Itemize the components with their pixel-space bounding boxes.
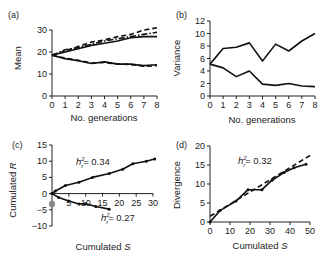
panel-d: (d) 0510152001020304050 Cumulated S Dive… [171, 140, 315, 251]
data-point [235, 200, 238, 203]
x-tick-label: 8 [154, 100, 159, 110]
x-tick-label: 0 [207, 226, 212, 236]
y-tick-label: 5 [200, 198, 205, 208]
data-point [305, 163, 308, 166]
y-axis-label-c: Cumulated R [7, 162, 18, 218]
data-point [145, 160, 148, 163]
x-tick-label: 40 [285, 226, 295, 236]
data-point [77, 202, 80, 205]
data-point [67, 200, 70, 203]
data-point [108, 208, 111, 211]
x-tick-label: 4 [102, 100, 107, 110]
data-point [54, 190, 57, 193]
data-point [153, 157, 156, 160]
data-point [57, 196, 60, 199]
x-tick-label: 0 [49, 100, 54, 110]
panel-c-axes: −10−505101551015202530 [32, 140, 158, 231]
panel-b-series [210, 34, 315, 87]
panel-a: (a) 0102030012345678 No. generations Mea… [8, 10, 160, 123]
x-tick-label: 4 [260, 100, 265, 110]
y-tick-label: 20 [195, 141, 205, 151]
annotation-h2-d: h2r= 0.32 [238, 155, 272, 168]
x-axis-label-a: No. generations [70, 112, 137, 123]
series-line [52, 37, 157, 56]
x-tick-label: 5 [66, 198, 71, 208]
panel-label-c: (c) [12, 140, 23, 150]
y-tick-label: 15 [195, 160, 205, 170]
y-tick-label: 0 [200, 91, 205, 101]
y-tick-label: 0 [42, 91, 47, 101]
data-point [209, 221, 212, 224]
y-tick-label: −10 [32, 221, 47, 231]
data-point [91, 176, 94, 179]
x-tick-label: 6 [286, 100, 291, 110]
y-tick-label: 10 [195, 179, 205, 189]
panel-b-axes: 024681012012345678 [195, 16, 318, 110]
data-point [84, 202, 87, 205]
x-tick-label: 3 [89, 100, 94, 110]
y-tick-label: 10 [37, 156, 47, 166]
x-tick-label: 7 [299, 100, 304, 110]
figure: (a) 0102030012345678 No. generations Mea… [0, 0, 329, 263]
x-tick-label: 5 [115, 100, 120, 110]
panel-b: (b) 024681012012345678 No. generations V… [171, 10, 318, 125]
data-point [108, 172, 111, 175]
series-line [210, 34, 315, 65]
x-tick-label: 5 [273, 100, 278, 110]
y-tick-label: −5 [37, 205, 47, 215]
x-tick-label: 8 [312, 100, 317, 110]
x-tick-label: 7 [141, 100, 146, 110]
y-tick-label: 30 [37, 25, 47, 35]
y-tick-label: 8 [200, 41, 205, 51]
x-tick-label: 25 [131, 198, 141, 208]
x-tick-label: 30 [265, 226, 275, 236]
data-point [51, 192, 54, 195]
annotation-h2-up: h2r= 0.34 [76, 156, 110, 169]
x-tick-label: 20 [114, 198, 124, 208]
panel-label-a: (a) [8, 10, 19, 20]
data-point [247, 188, 250, 191]
data-point [283, 171, 286, 174]
y-axis-label-a: Mean [12, 46, 23, 70]
x-tick-label: 20 [245, 226, 255, 236]
y-tick-label: 10 [195, 29, 205, 39]
y-tick-label: 12 [195, 16, 205, 26]
y-tick-label: 0 [42, 189, 47, 199]
gray-marker [49, 200, 55, 207]
x-tick-label: 2 [76, 100, 81, 110]
y-tick-label: 10 [37, 69, 47, 79]
x-tick-label: 50 [305, 226, 315, 236]
panel-a-axes: 0102030012345678 [37, 25, 160, 110]
series-line [210, 64, 315, 87]
y-tick-label: 2 [200, 79, 205, 89]
data-point [94, 205, 97, 208]
y-tick-label: 20 [37, 47, 47, 57]
y-axis-label-b: Variance [171, 40, 182, 77]
panel-a-series [52, 28, 157, 67]
x-tick-label: 6 [128, 100, 133, 110]
panel-label-d: (d) [176, 140, 187, 150]
x-tick-label: 10 [225, 226, 235, 236]
y-tick-label: 6 [200, 54, 205, 64]
x-tick-label: 3 [247, 100, 252, 110]
x-tick-label: 0 [207, 100, 212, 110]
y-tick-label: 4 [200, 66, 205, 76]
y-axis-label-d: Divergence [171, 161, 182, 209]
data-point [77, 181, 80, 184]
data-point [64, 184, 67, 187]
annotation-h2-down: h2r= 0.27 [101, 212, 135, 225]
series-line [210, 164, 306, 222]
x-tick-label: 30 [148, 198, 158, 208]
x-tick-label: 15 [97, 198, 107, 208]
data-point [131, 162, 134, 165]
x-tick-label: 1 [221, 100, 226, 110]
data-point [121, 168, 124, 171]
x-tick-label: 2 [234, 100, 239, 110]
x-tick-label: 1 [63, 100, 68, 110]
y-tick-label: 0 [200, 217, 205, 227]
y-tick-label: 5 [42, 172, 47, 182]
panel-label-b: (b) [176, 10, 187, 20]
x-axis-label-b: No. generations [228, 114, 295, 125]
x-axis-label-c: Cumulated S [76, 241, 132, 252]
panel-c: (c) −10−505101551015202530 Cumulated S C… [7, 140, 158, 252]
